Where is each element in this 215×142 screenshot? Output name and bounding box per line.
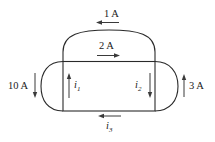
arrow-i2-down-icon (148, 73, 152, 98)
label-3a: 3 A (189, 80, 204, 91)
label-i1: i1 (74, 79, 80, 93)
arrow-1a-left-icon (96, 20, 119, 24)
right-arc-wire (155, 62, 178, 112)
left-arc-wire (41, 62, 63, 112)
label-10a: 10 A (8, 80, 29, 91)
label-i3: i3 (106, 120, 113, 134)
arrow-i3-left-icon (98, 114, 121, 118)
arrow-2a-right-icon (97, 53, 120, 57)
arrow-10a-down-icon (33, 73, 37, 98)
circuit-diagram: 1 A 2 A 10 A 3 A i1 i2 i3 (0, 0, 215, 142)
label-i2: i2 (135, 79, 142, 93)
label-2a: 2 A (99, 40, 114, 51)
arrow-i1-up-icon (67, 73, 71, 98)
arrow-3a-up-icon (182, 74, 186, 97)
label-1a: 1 A (104, 8, 119, 19)
